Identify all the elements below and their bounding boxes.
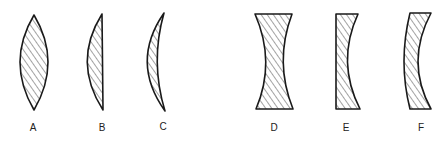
lens-d-label: D xyxy=(270,122,277,133)
lens-d-biconcave: D xyxy=(255,14,293,133)
lens-diagram: A B C D E F xyxy=(0,0,446,143)
lens-a-label: A xyxy=(30,122,37,133)
lens-e-plano-concave: E xyxy=(336,14,360,133)
lens-b-label: B xyxy=(99,122,106,133)
lens-c-convex-meniscus: C xyxy=(147,13,166,132)
lens-f-label: F xyxy=(418,122,424,133)
lens-c-label: C xyxy=(159,121,166,132)
lens-a-biconvex: A xyxy=(20,15,48,133)
lens-e-label: E xyxy=(343,122,350,133)
lens-f-concave-meniscus: F xyxy=(404,13,431,133)
lens-b-plano-convex: B xyxy=(87,14,105,133)
